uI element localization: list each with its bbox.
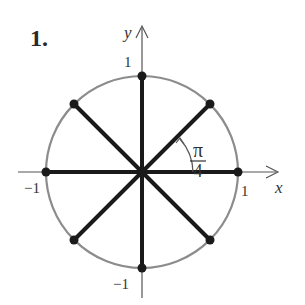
point-3pi-2 (138, 264, 147, 273)
unit-circle-figure: 1. π 4 1 −1 1 −1 x y (0, 0, 305, 305)
point-pi-4 (206, 100, 215, 109)
point-5pi-4 (70, 236, 79, 245)
point-7pi-4 (206, 236, 215, 245)
point-pi (42, 168, 51, 177)
angle-denominator: 4 (194, 161, 203, 181)
y-axis-label: y (122, 23, 132, 42)
x-tick-neg-1: −1 (24, 180, 40, 196)
point-0 (234, 168, 243, 177)
angle-numerator: π (193, 139, 203, 161)
y-tick-1: 1 (124, 54, 132, 70)
problem-number: 1. (30, 25, 48, 51)
angle-arc (180, 139, 193, 172)
y-tick-neg-1: −1 (113, 276, 129, 292)
origin-point (139, 169, 146, 176)
point-pi-2 (138, 72, 147, 81)
point-3pi-4 (70, 100, 79, 109)
x-axis-label: x (274, 178, 283, 197)
axes (18, 26, 278, 298)
x-tick-1: 1 (241, 183, 249, 199)
